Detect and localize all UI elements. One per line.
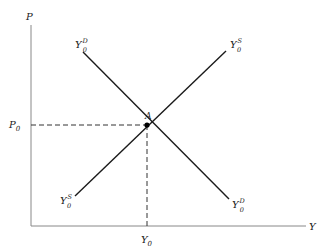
supply-label-top: YS0	[230, 37, 243, 54]
equilibrium-diagram: P Y A P0 Y0 YD0 YD0 YS0 YS0	[0, 0, 327, 250]
supply-label-bottom: YS0	[60, 193, 73, 210]
quantity-axis-label: Y	[309, 221, 317, 232]
demand-label-top: YD0	[75, 37, 89, 54]
price-axis-label: P	[25, 11, 33, 22]
equilibrium-label: A	[144, 111, 152, 121]
supply-curve	[75, 51, 226, 196]
demand-label-bottom: YD0	[232, 197, 246, 214]
price-equilibrium-label: P0	[8, 119, 21, 133]
equilibrium-point	[144, 122, 149, 127]
quantity-equilibrium-label: Y0	[141, 234, 153, 248]
